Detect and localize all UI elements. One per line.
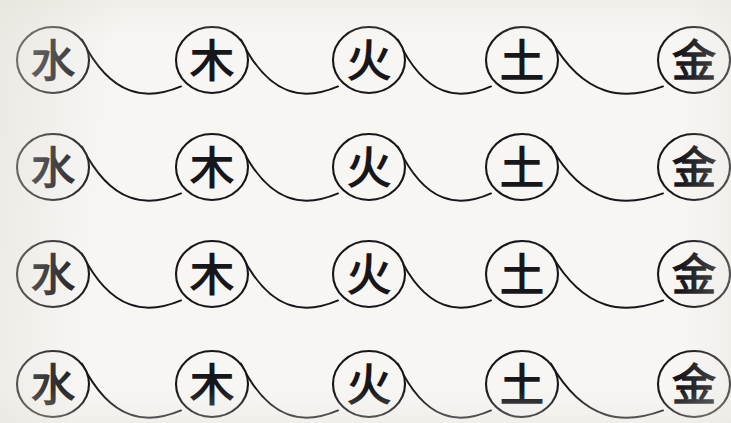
cycle-connector-curve xyxy=(398,254,491,308)
element-glyph-metal: 金 xyxy=(671,250,717,301)
cycle-connector-curve xyxy=(551,364,663,418)
element-glyph-fire: 火 xyxy=(347,36,391,87)
cycle-connector-curve xyxy=(398,364,491,418)
earth-element-circle[interactable]: 土 xyxy=(486,351,558,417)
cycle-connector-curve xyxy=(82,147,181,201)
earth-element-circle[interactable]: 土 xyxy=(486,241,558,307)
element-glyph-water: 水 xyxy=(31,250,76,301)
element-glyph-earth: 土 xyxy=(500,143,544,194)
element-glyph-water: 水 xyxy=(31,360,76,411)
element-glyph-water: 水 xyxy=(31,143,76,194)
element-glyph-wood: 木 xyxy=(190,250,234,301)
five-elements-diagram: 水木火土金水木火土金水木火土金水木火土金 xyxy=(0,0,731,423)
wood-element-circle[interactable]: 木 xyxy=(176,134,248,200)
element-glyph-metal: 金 xyxy=(671,143,717,194)
water-element-circle[interactable]: 水 xyxy=(17,241,89,307)
cycle-connector-curve xyxy=(82,40,181,94)
element-glyph-metal: 金 xyxy=(671,360,717,411)
water-element-circle[interactable]: 水 xyxy=(17,351,89,417)
element-glyph-wood: 木 xyxy=(190,36,234,87)
cycle-connector-curve xyxy=(241,364,338,418)
water-element-circle[interactable]: 水 xyxy=(17,134,89,200)
element-glyph-earth: 土 xyxy=(500,360,544,411)
element-glyph-earth: 土 xyxy=(500,250,544,301)
cycle-connector-curve xyxy=(551,147,663,201)
metal-element-circle[interactable]: 金 xyxy=(658,241,730,307)
earth-element-circle[interactable]: 土 xyxy=(486,27,558,93)
metal-element-circle[interactable]: 金 xyxy=(658,27,730,93)
cycle-connector-curve xyxy=(551,40,663,94)
cycle-connector-curve xyxy=(241,254,338,308)
fire-element-circle[interactable]: 火 xyxy=(333,134,405,200)
fire-element-circle[interactable]: 火 xyxy=(333,27,405,93)
cycle-connector-curve xyxy=(551,254,663,308)
fire-element-circle[interactable]: 火 xyxy=(333,351,405,417)
earth-element-circle[interactable]: 土 xyxy=(486,134,558,200)
wood-element-circle[interactable]: 木 xyxy=(176,241,248,307)
cycle-connector-curve xyxy=(398,147,491,201)
element-glyph-fire: 火 xyxy=(347,360,391,411)
element-glyph-wood: 木 xyxy=(190,360,234,411)
wood-element-circle[interactable]: 木 xyxy=(176,27,248,93)
fire-element-circle[interactable]: 火 xyxy=(333,241,405,307)
element-glyph-water: 水 xyxy=(31,36,76,87)
wood-element-circle[interactable]: 木 xyxy=(176,351,248,417)
page-canvas: 水木火土金水木火土金水木火土金水木火土金 xyxy=(0,0,731,423)
metal-element-circle[interactable]: 金 xyxy=(658,134,730,200)
element-glyph-fire: 火 xyxy=(347,143,391,194)
element-glyph-fire: 火 xyxy=(347,250,391,301)
cycle-connector-curve xyxy=(398,40,491,94)
element-glyph-metal: 金 xyxy=(671,36,717,87)
metal-element-circle[interactable]: 金 xyxy=(658,351,730,417)
water-element-circle[interactable]: 水 xyxy=(17,27,89,93)
cycle-connector-curve xyxy=(241,40,338,94)
cycle-connector-curve xyxy=(82,254,181,308)
element-glyph-wood: 木 xyxy=(190,143,234,194)
cycle-connector-curve xyxy=(241,147,338,201)
cycle-connector-curve xyxy=(82,364,181,418)
element-glyph-earth: 土 xyxy=(500,36,544,87)
